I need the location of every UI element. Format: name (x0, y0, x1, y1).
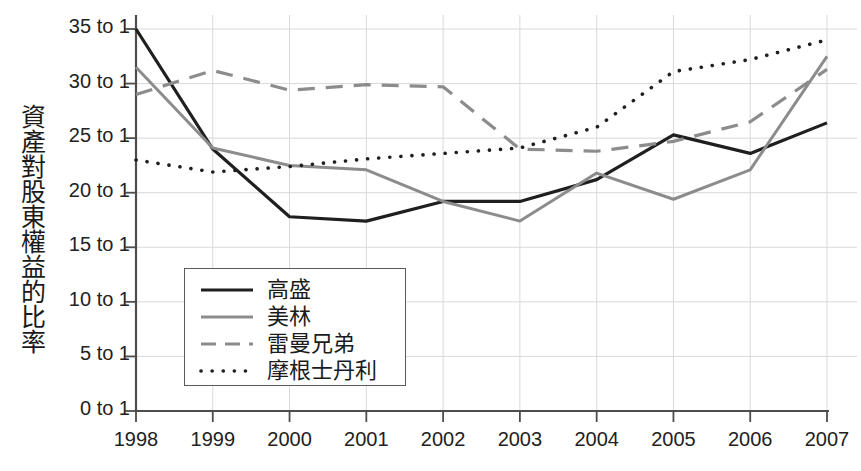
series-line-2 (136, 69, 827, 151)
legend-label: 美林 (267, 306, 311, 328)
legend-label: 雷曼兄弟 (267, 333, 355, 355)
legend-swatch-2 (199, 334, 255, 354)
legend-label: 摩根士丹利 (267, 360, 377, 382)
legend-swatch-0 (199, 280, 255, 300)
legend-item: 雷曼兄弟 (185, 329, 405, 358)
legend-item: 摩根士丹利 (185, 356, 405, 385)
legend-label: 高盛 (267, 279, 311, 301)
chart-container: 資產對股東權益的比率 0 to 15 to 110 to 115 to 120 … (0, 0, 861, 471)
legend-item: 高盛 (185, 275, 405, 304)
legend-swatch-1 (199, 307, 255, 327)
plot-area (0, 0, 861, 471)
series-line-3 (136, 40, 827, 172)
series-line-1 (136, 56, 827, 221)
legend-swatch-3 (199, 361, 255, 381)
legend: 高盛美林雷曼兄弟摩根士丹利 (184, 268, 406, 386)
legend-item: 美林 (185, 302, 405, 331)
